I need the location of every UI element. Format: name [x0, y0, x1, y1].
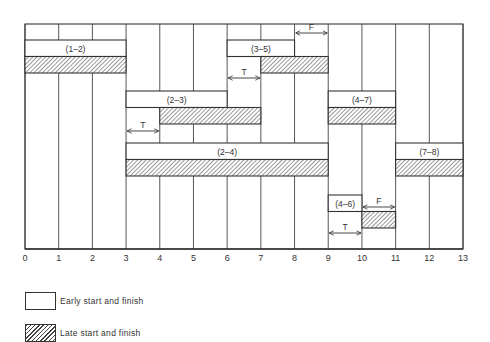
late-bar [160, 108, 261, 125]
legend-item-late: Late start and finish [25, 324, 140, 342]
late-bar [396, 160, 463, 177]
x-tick-label: 7 [258, 253, 263, 263]
activity-label: (2–4) [217, 147, 237, 157]
activity-4-7: (4–7) [328, 91, 395, 124]
x-tick-label: 6 [225, 253, 230, 263]
legend-label-late: Late start and finish [60, 328, 140, 338]
activity-label: (4–7) [352, 95, 372, 105]
x-tick-label: 9 [326, 253, 331, 263]
x-tick-label: 4 [157, 253, 162, 263]
late-bar [328, 108, 395, 125]
float-label: T [342, 222, 347, 232]
float-arrow-t: T [228, 67, 260, 78]
x-tick-label: 1 [56, 253, 61, 263]
x-tick-label: 2 [90, 253, 95, 263]
late-bar [25, 57, 126, 74]
x-tick-label: 5 [191, 253, 196, 263]
activity-label: (4–6) [335, 199, 355, 209]
late-bar [261, 57, 328, 74]
legend-label-early: Early start and finish [60, 296, 144, 306]
x-tick-label: 8 [292, 253, 297, 263]
activity-label: (3–5) [251, 44, 271, 54]
x-axis: 012345678910111213 [22, 249, 468, 263]
legend-item-early: Early start and finish [25, 292, 144, 310]
activity-label: (1–2) [66, 44, 86, 54]
x-tick-label: 0 [22, 253, 27, 263]
activity-4-6: (4–6) [328, 195, 395, 228]
x-tick-label: 13 [458, 253, 468, 263]
late-bar [362, 212, 396, 229]
late-bar [126, 160, 328, 177]
legend-swatch-open [25, 292, 56, 310]
x-tick-label: 11 [391, 253, 400, 263]
float-arrow-t: T [329, 222, 361, 233]
legend-swatch-hatched [25, 324, 56, 342]
x-tick-label: 12 [424, 253, 434, 263]
float-label: F [309, 22, 314, 32]
activity-label: (2–3) [167, 95, 187, 105]
activity-2-3: (2–3) [126, 91, 261, 124]
activity-7-8: (7–8) [396, 143, 463, 176]
float-label: T [140, 120, 145, 130]
float-arrow-f: F [363, 196, 395, 207]
activity-2-4: (2–4) [126, 143, 328, 176]
float-arrow-t: T [127, 120, 159, 131]
activity-1-2: (1–2) [25, 40, 126, 73]
x-tick-label: 10 [357, 253, 367, 263]
activity-label: (7–8) [419, 147, 439, 157]
float-label: T [241, 67, 246, 77]
float-label: F [376, 196, 381, 206]
x-tick-label: 3 [124, 253, 129, 263]
